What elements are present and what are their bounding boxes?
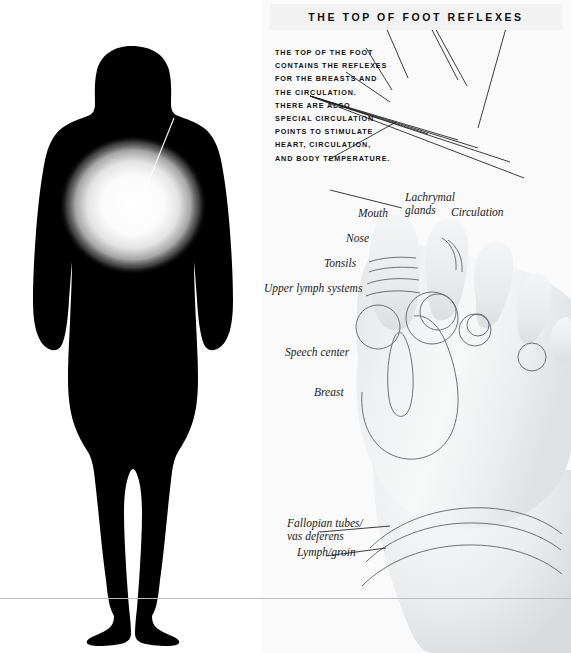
label-circulation: Circulation: [451, 206, 504, 219]
label-breasts: Breasts: [185, 106, 219, 119]
intro-line: THERE ARE ALSO: [275, 99, 455, 112]
intro-text-block: THE TOP OF THE FOOT CONTAINS THE REFLEXE…: [275, 46, 455, 165]
reflexology-page: Breasts: [0, 0, 571, 653]
intro-line: AND BODY TEMPERATURE.: [275, 152, 455, 165]
label-tonsils: Tonsils: [324, 257, 356, 270]
label-breast: Breast: [314, 386, 344, 399]
body-silhouette-graphic: [0, 0, 262, 653]
intro-line: SPECIAL CIRCULATION: [275, 112, 455, 125]
title-bar: THE TOP OF FOOT REFLEXES: [270, 4, 562, 30]
intro-line: THE TOP OF THE FOOT: [275, 46, 455, 59]
label-mouth: Mouth: [358, 207, 388, 220]
breast-reflex-highlight: [59, 135, 207, 275]
label-lymph-groin: Lymph/groin: [297, 546, 356, 559]
footer-divider: [0, 598, 571, 599]
intro-line: POINTS TO STIMULATE: [275, 125, 455, 138]
intro-line: CONTAINS THE REFLEXES: [275, 59, 455, 72]
label-lachrymal-glands-line1: Lachrymal: [405, 191, 455, 204]
page-title: THE TOP OF FOOT REFLEXES: [308, 11, 523, 23]
intro-line: FOR THE BREASTS AND: [275, 72, 455, 85]
label-fallopian-tubes-line2: vas deferens: [287, 530, 344, 543]
label-nose: Nose: [346, 232, 369, 245]
label-upper-lymph-systems: Upper lymph systems: [264, 282, 362, 295]
label-lachrymal-glands-line2: glands: [405, 204, 436, 217]
label-fallopian-tubes-line1: Fallopian tubes/: [287, 517, 363, 530]
intro-line: THE CIRCULATION.: [275, 86, 455, 99]
intro-line: HEART, CIRCULATION,: [275, 138, 455, 151]
foot-illustration: [357, 214, 571, 653]
body-figure-panel: Breasts: [0, 0, 262, 653]
label-speech-center: Speech center: [285, 346, 349, 359]
